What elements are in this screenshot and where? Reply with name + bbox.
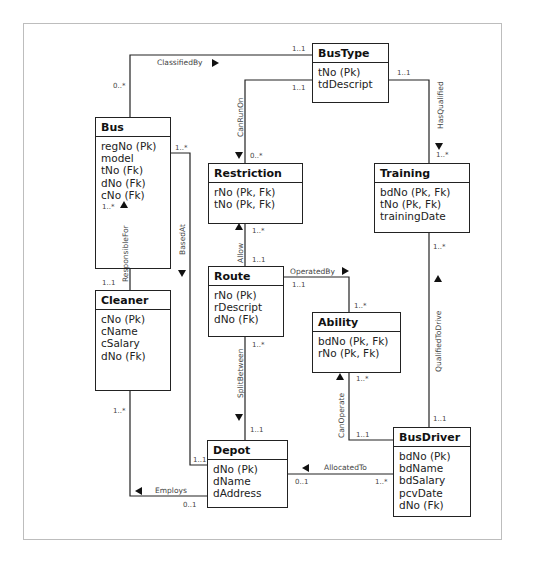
rel-label-canoperate: CanOperate: [337, 393, 346, 438]
attribute: rNo (Pk): [214, 289, 278, 301]
attribute: trainingDate: [380, 210, 464, 222]
entity-title: Bus: [96, 118, 170, 137]
attribute: regNo (Pk): [101, 140, 165, 152]
direction-arrow-up-icon: [336, 373, 344, 380]
line-hasqualified: [389, 80, 429, 163]
direction-arrow-up-icon: [235, 223, 243, 230]
direction-arrow-right-icon: [212, 59, 219, 67]
direction-arrow-up-icon: [434, 275, 442, 282]
line-employs: [130, 390, 207, 496]
attribute: dNo (Pk): [213, 463, 282, 475]
entity-title: BusDriver: [394, 428, 470, 447]
multiplicity: 1..*: [436, 151, 448, 159]
entity-ability[interactable]: Ability bdNo (Pk, Fk) rNo (Pk, Fk): [312, 312, 401, 373]
direction-arrow-left-icon: [135, 487, 142, 495]
rel-label-operatedby: OperatedBy: [290, 267, 335, 276]
multiplicity: 1..1: [433, 415, 446, 423]
entity-title: Training: [375, 164, 469, 183]
attribute: cSalary: [101, 337, 165, 349]
entity-depot[interactable]: Depot dNo (Pk) dName dAddress: [207, 440, 288, 508]
entity-cleaner[interactable]: Cleaner cNo (Pk) cName cSalary dNo (Fk): [95, 290, 171, 391]
entity-route[interactable]: Route rNo (Pk) rDescript dNo (Fk): [208, 266, 284, 337]
attribute: dNo (Fk): [101, 350, 165, 362]
multiplicity: 1..1: [193, 456, 206, 464]
attribute: cName: [101, 325, 165, 337]
direction-arrow-down-icon: [235, 152, 243, 159]
entity-bustype[interactable]: BusType tNo (Pk) tdDescript: [312, 43, 389, 103]
entity-title: Restriction: [209, 164, 302, 183]
attribute: bdSalary: [399, 474, 465, 486]
multiplicity: 1..1: [292, 281, 305, 289]
entity-training[interactable]: Training bdNo (Pk, Fk) tNo (Pk, Fk) trai…: [374, 163, 470, 233]
attribute: cNo (Fk): [101, 189, 165, 201]
attribute: dAddress: [213, 487, 282, 499]
multiplicity: 1..1: [397, 69, 410, 77]
multiplicity: 1..1: [292, 45, 305, 53]
entity-busdriver[interactable]: BusDriver bdNo (Pk) bdName bdSalary pcvD…: [393, 427, 471, 517]
multiplicity: 0..1: [183, 501, 196, 509]
attribute: bdNo (Pk, Fk): [318, 335, 395, 347]
rel-label-qualifiedtodrive: QualifiedToDrive: [434, 311, 443, 372]
multiplicity: 1..1: [252, 256, 265, 264]
multiplicity: 1..1: [250, 426, 263, 434]
multiplicity: 1..*: [252, 341, 264, 349]
attribute: model: [101, 152, 165, 164]
rel-label-classifiedby: ClassifiedBy: [157, 58, 203, 67]
entity-title: Cleaner: [96, 291, 170, 310]
entity-title: Ability: [313, 313, 400, 332]
rel-label-responsiblefor: ResponsibleFor: [121, 225, 130, 282]
multiplicity: 0..*: [250, 152, 262, 160]
multiplicity: 1..*: [354, 302, 366, 310]
multiplicity: 1..1: [292, 84, 305, 92]
multiplicity: 1..*: [375, 478, 387, 486]
rel-label-allow: Allow: [236, 243, 245, 263]
entity-title: Route: [209, 267, 283, 286]
attribute: tNo (Pk, Fk): [214, 198, 297, 210]
line-canrunon: [245, 80, 312, 163]
rel-label-hasqualified: HasQualified: [436, 81, 445, 129]
multiplicity: 0..1: [295, 478, 308, 486]
direction-arrow-right-icon: [342, 267, 349, 275]
direction-arrow-down-icon: [435, 143, 443, 150]
entity-bus[interactable]: Bus regNo (Pk) model tNo (Fk) dNo (Fk) c…: [95, 117, 171, 269]
attribute: dNo (Fk): [101, 177, 165, 189]
attribute: dName: [213, 475, 282, 487]
rel-label-basedat: BasedAt: [178, 224, 187, 255]
attribute: tNo (Pk, Fk): [380, 198, 464, 210]
attribute: rNo (Pk, Fk): [318, 347, 395, 359]
attribute: tNo (Pk): [318, 66, 383, 78]
attribute: bdName: [399, 462, 465, 474]
attribute: cNo (Pk): [101, 313, 165, 325]
entity-title: BusType: [313, 44, 388, 63]
attribute: pcvDate: [399, 487, 465, 499]
direction-arrow-up-icon: [120, 201, 128, 208]
multiplicity: 1..*: [175, 144, 187, 152]
attribute: bdNo (Pk): [399, 450, 465, 462]
rel-label-allocatedto: AllocatedTo: [324, 463, 367, 472]
rel-label-splitbetween: SplitBetween: [236, 349, 245, 398]
direction-arrow-down-icon: [235, 414, 243, 421]
multiplicity: 1..*: [113, 407, 125, 415]
direction-arrow-down-icon: [178, 270, 186, 277]
attribute: rNo (Pk, Fk): [214, 186, 297, 198]
multiplicity: 1..*: [102, 203, 114, 211]
multiplicity: 1..*: [433, 243, 445, 251]
attribute: bdNo (Pk, Fk): [380, 186, 464, 198]
multiplicity: 1..1: [356, 431, 369, 439]
entity-restriction[interactable]: Restriction rNo (Pk, Fk) tNo (Pk, Fk): [208, 163, 303, 224]
multiplicity: 1..1: [102, 279, 115, 287]
attribute: tdDescript: [318, 78, 383, 90]
attribute: dNo (Fk): [399, 499, 465, 511]
multiplicity: 0..*: [113, 82, 125, 90]
rel-label-employs: Employs: [155, 486, 187, 495]
line-basedat: [170, 153, 207, 465]
attribute: tNo (Fk): [101, 164, 165, 176]
rel-label-canrunon: CanRunOn: [236, 97, 245, 137]
multiplicity: 1..*: [252, 227, 264, 235]
entity-title: Depot: [208, 441, 287, 460]
attribute: rDescript: [214, 301, 278, 313]
multiplicity: 1..*: [356, 375, 368, 383]
attribute: dNo (Fk): [214, 313, 278, 325]
direction-arrow-left-icon: [302, 464, 309, 472]
